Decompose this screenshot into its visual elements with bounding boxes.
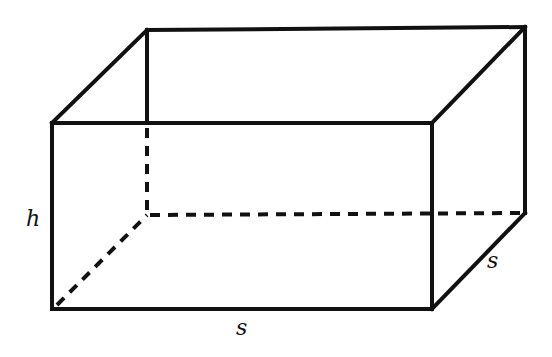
- back-top-edge: [147, 27, 525, 30]
- height-label: h: [26, 208, 40, 230]
- hidden-bottom-left-edge: [57, 215, 147, 305]
- prism-diagram: [0, 0, 552, 357]
- top-left-edge: [52, 30, 147, 123]
- depth-label: s: [487, 250, 498, 272]
- bottom-right-edge: [432, 213, 525, 309]
- length-label: s: [236, 317, 247, 339]
- hidden-back-bottom-edge: [150, 213, 525, 215]
- top-right-edge: [432, 27, 525, 123]
